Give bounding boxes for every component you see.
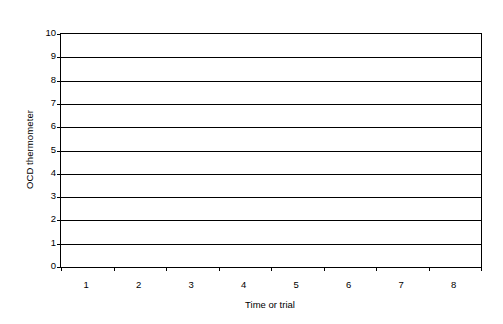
x-axis-tick: [166, 267, 167, 271]
x-axis-tick: [219, 267, 220, 271]
x-axis-tick-label: 7: [375, 278, 428, 291]
gridline: [61, 151, 481, 152]
y-axis-tick: [57, 197, 61, 198]
y-axis-tick: [57, 34, 61, 35]
x-axis-tick-label: 2: [113, 278, 166, 291]
x-axis-tick-label: 6: [323, 278, 376, 291]
x-axis-tick: [114, 267, 115, 271]
chart-container: OCD thermometer 012345678910 12345678 Ti…: [0, 0, 503, 324]
gridline: [61, 220, 481, 221]
y-axis-tick-label: 6: [34, 120, 56, 132]
y-axis-tick-label: 8: [34, 74, 56, 86]
y-axis-tick: [57, 127, 61, 128]
y-axis-tick-label: 7: [34, 97, 56, 109]
x-axis-tick: [481, 267, 482, 271]
x-axis-tick: [376, 267, 377, 271]
y-axis-tick: [57, 220, 61, 221]
y-axis-tick-label: 9: [34, 50, 56, 62]
y-axis-tick-label: 1: [34, 237, 56, 249]
x-axis-tick-label: 4: [218, 278, 271, 291]
x-axis-tick: [61, 267, 62, 271]
y-axis-tick: [57, 81, 61, 82]
gridline: [61, 57, 481, 58]
y-axis-tick-label: 3: [34, 190, 56, 202]
x-axis-tick: [324, 267, 325, 271]
gridline: [61, 127, 481, 128]
x-axis-title: Time or trial: [60, 298, 480, 312]
gridline: [61, 197, 481, 198]
y-axis-tick: [57, 151, 61, 152]
y-axis-tick-label: 4: [34, 167, 56, 179]
y-axis-tick-label: 5: [34, 144, 56, 156]
x-axis-tick-label: 1: [60, 278, 113, 291]
x-axis-tick: [271, 267, 272, 271]
gridline: [61, 104, 481, 105]
x-axis-tick-label: 3: [165, 278, 218, 291]
y-axis-tick-labels: 012345678910: [32, 0, 56, 324]
y-axis-tick: [57, 57, 61, 58]
y-axis-tick: [57, 244, 61, 245]
x-axis-tick-label: 5: [270, 278, 323, 291]
x-axis-tick: [429, 267, 430, 271]
gridline: [61, 174, 481, 175]
x-axis-tick-labels: 12345678: [60, 278, 480, 292]
y-axis-tick-label: 2: [34, 213, 56, 225]
plot-area: [60, 33, 482, 268]
y-axis-tick: [57, 104, 61, 105]
y-axis-tick: [57, 174, 61, 175]
gridline: [61, 244, 481, 245]
gridline: [61, 81, 481, 82]
y-axis-tick-label: 0: [34, 260, 56, 272]
x-axis-tick-label: 8: [428, 278, 481, 291]
y-axis-tick-label: 10: [34, 27, 56, 39]
